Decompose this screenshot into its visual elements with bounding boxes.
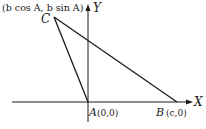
point-a-label: A <box>88 106 97 119</box>
x-axis-arrow-icon <box>186 100 193 105</box>
point-c-label: C <box>41 12 50 26</box>
triangle-diagram: (b cos A, b sin A) C Y X A (0,0) B (c,0) <box>0 0 206 129</box>
y-axis-label: Y <box>93 1 102 15</box>
point-a-coordinates: (0,0) <box>97 108 118 118</box>
y-axis-arrow-icon <box>86 4 91 11</box>
side-cb <box>54 17 177 102</box>
side-ca <box>54 17 88 102</box>
point-b-coordinates: (c,0) <box>166 108 187 118</box>
x-axis-label: X <box>193 95 203 109</box>
point-b-label: B <box>155 106 164 119</box>
